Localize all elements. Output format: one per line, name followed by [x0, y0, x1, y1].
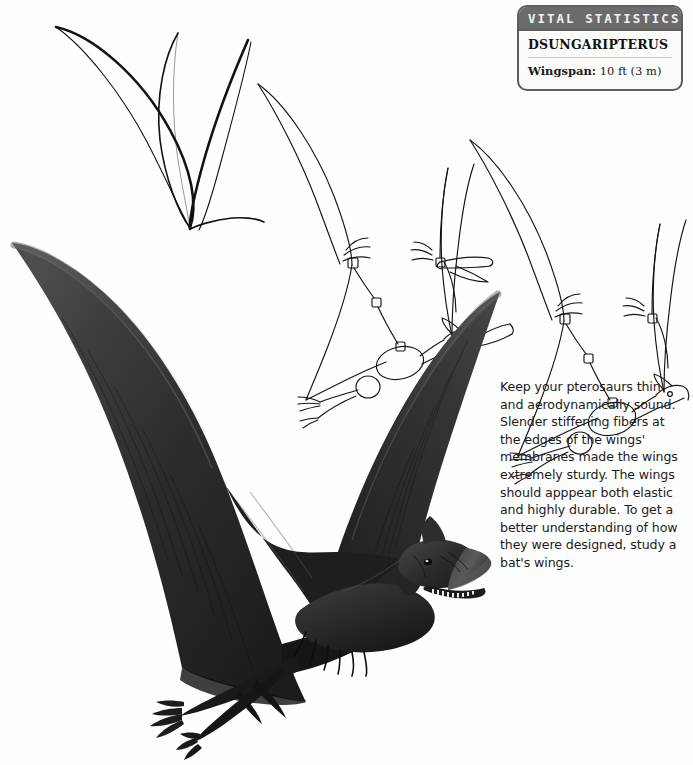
vital-statistics-card: VITAL STATISTICS DSUNGARIPTERUS Wingspan… — [517, 5, 683, 91]
illustration-page: VITAL STATISTICS DSUNGARIPTERUS Wingspan… — [0, 0, 693, 765]
stat-value-wingspan: 10 ft (3 m) — [600, 64, 662, 78]
vital-statistics-header: VITAL STATISTICS — [519, 7, 681, 31]
stat-row-wingspan: Wingspan: 10 ft (3 m) — [528, 64, 672, 78]
species-name: DSUNGARIPTERUS — [528, 37, 672, 52]
tip-paragraph: Keep your pterosaurs thin and aerodynami… — [500, 378, 682, 572]
stat-label-wingspan: Wingspan: — [528, 64, 596, 78]
vital-statistics-body: DSUNGARIPTERUS Wingspan: 10 ft (3 m) — [519, 31, 681, 78]
vital-statistics-title: VITAL STATISTICS — [528, 11, 680, 26]
vital-divider — [528, 57, 672, 58]
